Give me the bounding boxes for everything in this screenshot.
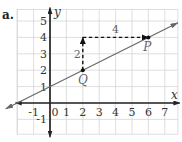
point-p (146, 35, 150, 39)
x-tick-label: 7 (161, 106, 168, 119)
coordinate-plane: yx-101234567-11234524QP (0, 0, 182, 142)
point-label-q: Q (78, 73, 88, 87)
line-backward (6, 66, 92, 109)
x-tick-label: 4 (112, 106, 119, 119)
y-tick-label: -1 (36, 113, 47, 126)
y-tick-label: 5 (40, 15, 47, 28)
y-tick-label: 3 (40, 48, 47, 61)
x-tick-label: 0 (52, 106, 59, 119)
x-tick-label: 5 (129, 106, 136, 119)
x-tick-label: 1 (63, 106, 70, 119)
x-tick-label: 6 (145, 106, 152, 119)
point-label-p: P (142, 40, 152, 54)
point-q (81, 68, 85, 72)
y-tick-label: 4 (40, 31, 47, 44)
x-tick-label: 3 (96, 106, 103, 119)
run-label: 4 (112, 23, 119, 36)
y-axis-label: y (53, 5, 61, 19)
x-axis-label: x (171, 88, 178, 102)
y-tick-label: 2 (40, 64, 47, 77)
rise-label: 2 (74, 48, 81, 61)
x-tick-label: 2 (79, 106, 86, 119)
